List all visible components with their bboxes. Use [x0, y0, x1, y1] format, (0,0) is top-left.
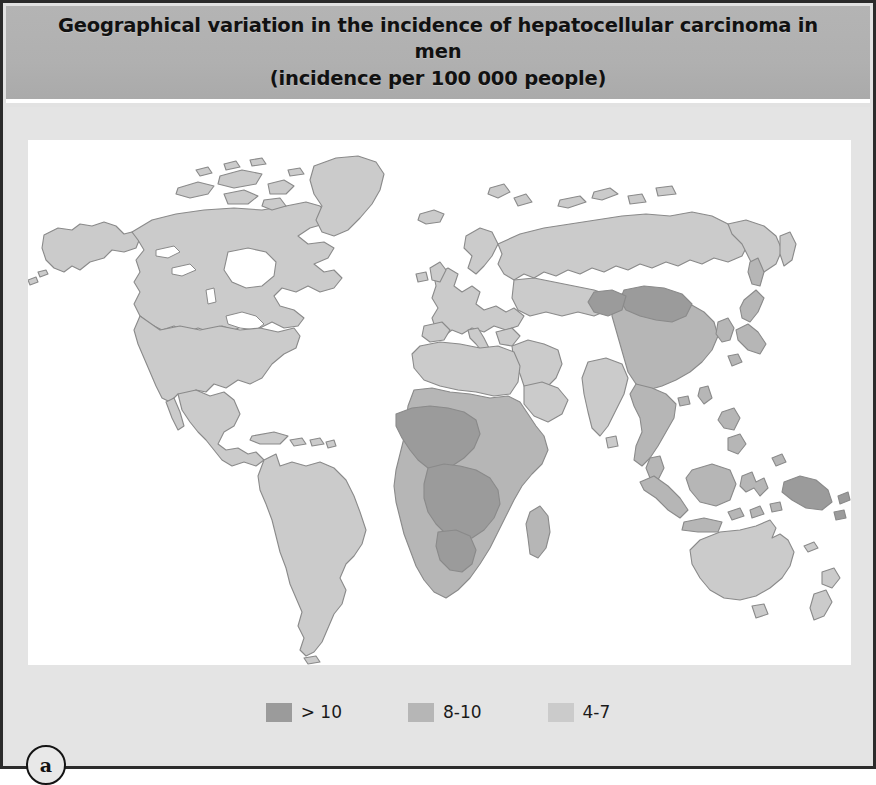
legend-item-over-10: > 10 [266, 702, 342, 722]
region-new-zealand [810, 568, 840, 620]
region-southeast-asia [630, 384, 676, 466]
region-kamchatka [780, 232, 796, 266]
legend-label-8-10: 8-10 [443, 702, 482, 722]
world-map-svg [28, 140, 851, 665]
region-arabian-peninsula [524, 382, 568, 422]
legend-swatch-4-7 [548, 703, 574, 722]
region-united-states [134, 316, 300, 402]
region-tasmania [752, 604, 768, 618]
figure-panel-label: a [26, 745, 66, 785]
region-south-america [258, 454, 366, 656]
legend-swatch-over-10 [266, 703, 292, 722]
region-sri-lanka [606, 436, 618, 448]
legend-item-8-10: 8-10 [408, 702, 482, 722]
region-sulawesi [740, 472, 768, 496]
figure-title-line-1: Geographical variation in the incidence … [58, 14, 818, 63]
map-legend: > 10 8-10 4-7 [6, 695, 870, 729]
figure-title: Geographical variation in the incidence … [6, 13, 870, 92]
region-russian-arctic-islands [514, 186, 676, 208]
region-tierra-del-fuego [304, 656, 320, 664]
legend-label-over-10: > 10 [301, 702, 342, 722]
legend-item-4-7: 4-7 [548, 702, 611, 722]
figure-body: > 10 8-10 4-7 a [6, 107, 870, 763]
region-mexico-central-america [178, 390, 264, 466]
region-hainan [678, 396, 690, 406]
legend-label-4-7: 4-7 [583, 702, 611, 722]
region-new-caledonia [804, 542, 818, 552]
region-balkans [496, 328, 520, 346]
region-canadian-arctic-islands [176, 158, 304, 210]
region-russia [498, 212, 748, 280]
region-british-isles [416, 262, 446, 282]
world-map-panel [28, 140, 851, 665]
region-sumatra [640, 476, 688, 518]
figure-title-band: Geographical variation in the incidence … [6, 6, 870, 103]
region-greenland [310, 156, 384, 236]
region-svalbard [488, 184, 510, 198]
region-java [682, 518, 722, 532]
region-taiwan [698, 386, 712, 404]
region-aleutian-islands [28, 270, 48, 285]
region-alaska [42, 222, 140, 272]
region-solomon-islands [834, 492, 850, 520]
region-scandinavia [464, 228, 498, 274]
region-caribbean-islands [250, 432, 336, 448]
legend-swatch-8-10 [408, 703, 434, 722]
region-india [582, 358, 628, 436]
region-borneo [686, 464, 736, 506]
figure-title-line-2: (incidence per 100 000 people) [270, 67, 606, 90]
region-madagascar [526, 506, 550, 558]
region-papua-new-guinea [782, 476, 832, 510]
region-lake-winnipeg [206, 288, 216, 304]
region-korea [716, 318, 734, 342]
region-iceland [418, 210, 444, 224]
region-philippines [718, 408, 746, 454]
